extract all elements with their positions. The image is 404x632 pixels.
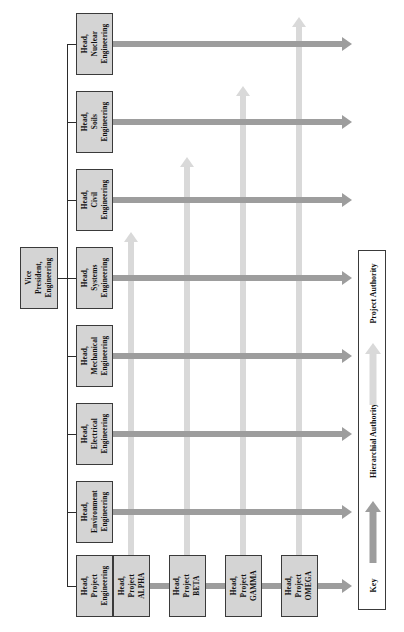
label-line: Head, xyxy=(80,258,90,298)
hierarchial-authority-arrow-electrical xyxy=(113,426,352,442)
label-line: Mechanical xyxy=(90,336,100,376)
label-line: GAMMA xyxy=(248,571,258,602)
label-line: BETA xyxy=(192,574,202,598)
label-line: Engineering xyxy=(99,414,109,454)
connector-stub-civil xyxy=(67,200,76,201)
hierarchial-authority-arrow-mechanical xyxy=(113,348,352,364)
label-line: Head, xyxy=(172,574,182,598)
arrow-head xyxy=(342,505,352,519)
arrow-shaft xyxy=(113,275,343,281)
hierarchial-authority-arrow-environment xyxy=(113,504,352,520)
arrow-shaft xyxy=(296,26,302,586)
arrow-shaft xyxy=(370,511,377,563)
department-box-electrical[interactable]: Head,ElectricalEngineering xyxy=(76,403,113,465)
project-box-gamma[interactable]: Head,ProjectGAMMA xyxy=(225,555,262,617)
label-line: Head, xyxy=(228,571,238,602)
label-line: Project xyxy=(90,566,100,606)
department-box-systems[interactable]: Head,SystemsEngineering xyxy=(76,247,113,309)
vice-president-engineering-label: VicePresident,Engineering xyxy=(24,258,53,298)
project-box-beta[interactable]: Head,ProjectBETA xyxy=(169,555,206,617)
label-line: Head, xyxy=(284,571,294,600)
label-line: Head, xyxy=(80,24,90,64)
label-line: Environment xyxy=(90,491,100,534)
project-label-gamma: Head,ProjectGAMMA xyxy=(228,571,257,602)
department-box-soils[interactable]: Head,SoilsEngineering xyxy=(76,91,113,153)
label-line: Engineering xyxy=(99,336,109,376)
department-box-project-eng[interactable]: Head,ProjectEngineering xyxy=(76,555,113,617)
label-line: Engineering xyxy=(99,491,109,534)
label-line: Civil xyxy=(90,180,100,220)
project-authority-arrow-beta xyxy=(179,157,195,586)
label-line: Head, xyxy=(80,491,90,534)
label-line: Head, xyxy=(116,573,126,599)
label-line: Head, xyxy=(80,102,90,142)
vice-president-engineering-box[interactable]: VicePresident,Engineering xyxy=(20,247,58,309)
label-line: Engineering xyxy=(99,102,109,142)
hierarchial-authority-arrow-nuclear xyxy=(113,36,352,52)
connector-stub-systems xyxy=(67,278,76,279)
hierarchial-authority-arrow-systems xyxy=(113,270,352,286)
label-line: Head, xyxy=(80,336,90,376)
label-line: Project xyxy=(294,571,304,600)
connector-stub-nuclear xyxy=(67,44,76,45)
label-line: Engineering xyxy=(99,24,109,64)
hierarchial-authority-arrow-civil xyxy=(113,192,352,208)
label-line: Soils xyxy=(90,102,100,142)
department-box-civil[interactable]: Head,CivilEngineering xyxy=(76,169,113,231)
project-label-omega: Head,ProjectOMEGA xyxy=(284,571,313,600)
matrix-org-chart-canvas: VicePresident,Engineering Head,NuclearEn… xyxy=(0,0,404,632)
hierarchial-authority-arrow-soils xyxy=(113,114,352,130)
project-authority-arrow-icon xyxy=(365,343,381,405)
arrow-shaft xyxy=(113,509,343,515)
connector-stub-electrical xyxy=(67,434,76,435)
label-line: Engineering xyxy=(99,258,109,298)
arrow-shaft xyxy=(113,197,343,203)
label-line: Project xyxy=(126,573,136,599)
hierarchial-authority-arrow-icon xyxy=(365,501,381,563)
arrow-head xyxy=(342,193,352,207)
connector-stub-soils xyxy=(67,122,76,123)
label-line: Electrical xyxy=(90,414,100,454)
department-box-nuclear[interactable]: Head,NuclearEngineering xyxy=(76,13,113,75)
label-line: ALPHA xyxy=(136,573,146,599)
project-label-alpha: Head,ProjectALPHA xyxy=(116,573,145,599)
connector-stub-mechanical xyxy=(67,356,76,357)
label-line: Engineering xyxy=(44,258,54,298)
department-box-environment[interactable]: Head,EnvironmentEngineering xyxy=(76,481,113,543)
label-line: Vice xyxy=(24,258,34,298)
label-line: President, xyxy=(34,258,44,298)
project-box-omega[interactable]: Head,ProjectOMEGA xyxy=(281,555,318,617)
department-label-mechanical: Head,MechanicalEngineering xyxy=(80,336,109,376)
department-label-electrical: Head,ElectricalEngineering xyxy=(80,414,109,454)
arrow-head xyxy=(342,271,352,285)
label-line: Engineering xyxy=(99,180,109,220)
label-line: Nuclear xyxy=(90,24,100,64)
arrow-head xyxy=(342,579,352,593)
connector-stub-project-eng xyxy=(67,586,76,587)
department-label-systems: Head,SystemsEngineering xyxy=(80,258,109,298)
label-line: Project xyxy=(238,571,248,602)
arrow-shaft xyxy=(113,431,343,437)
arrow-head xyxy=(342,349,352,363)
project-authority-label: Project Authority xyxy=(369,257,378,331)
arrow-shaft xyxy=(113,41,343,47)
hierarchial-authority-label: Hierarchial Authority xyxy=(369,391,378,491)
key-title-label: Key xyxy=(369,558,378,614)
label-line: Engineering xyxy=(99,566,109,606)
project-box-alpha[interactable]: Head,ProjectALPHA xyxy=(113,555,150,617)
label-line: Head, xyxy=(80,414,90,454)
department-label-project-eng: Head,ProjectEngineering xyxy=(80,566,109,606)
label-line: Systems xyxy=(90,258,100,298)
label-line: OMEGA xyxy=(304,571,314,600)
label-line: Head, xyxy=(80,180,90,220)
project-authority-arrow-omega xyxy=(291,17,307,586)
arrow-head xyxy=(342,427,352,441)
key-legend-box: Key Hierarchial Authority Project Author… xyxy=(358,250,386,610)
department-box-mechanical[interactable]: Head,MechanicalEngineering xyxy=(76,325,113,387)
connector-spine xyxy=(67,44,68,586)
department-label-soils: Head,SoilsEngineering xyxy=(80,102,109,142)
arrow-shaft xyxy=(184,166,190,586)
arrow-head xyxy=(342,115,352,129)
department-label-nuclear: Head,NuclearEngineering xyxy=(80,24,109,64)
label-line: Head, xyxy=(80,566,90,606)
